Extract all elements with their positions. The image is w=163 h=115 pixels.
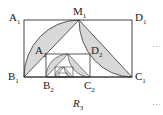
shaded-lune-right-1 [79, 20, 132, 77]
label-A2: A2 [35, 45, 46, 59]
label-A1: A1 [9, 12, 20, 26]
ellipsis-top: ··· [152, 42, 161, 51]
label-C1: C1 [135, 71, 146, 85]
label-R3: R3 [73, 98, 83, 112]
label-D1: D1 [135, 12, 146, 26]
label-B1: B1 [8, 71, 19, 85]
label-D2: D2 [91, 45, 102, 59]
shaded-lune-left-3 [55, 67, 64, 77]
ellipsis-bottom: ··· [152, 100, 161, 109]
shaded-lune-right-2 [68, 54, 90, 77]
label-M1: M1 [73, 6, 86, 20]
label-C2: C2 [84, 80, 95, 94]
shaded-lune-right-3 [64, 67, 73, 77]
rectangle-4 [59, 73, 67, 77]
label-B2: B2 [43, 80, 54, 94]
